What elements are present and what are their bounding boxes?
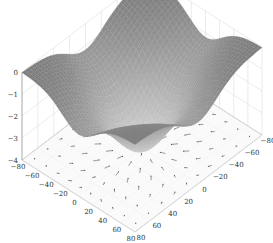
arrow-head [98,159,99,160]
arrow-head [174,192,175,193]
arrow-head [112,207,113,208]
arrow-head [74,145,75,146]
arrow-head [47,148,48,149]
arrow-head [34,158,35,159]
arrow-head [174,128,175,129]
arrow-head [171,144,172,145]
arrow-head [140,168,141,169]
x-tick-label: 80 [127,235,136,243]
y-tick-label: 60 [152,222,161,230]
arrow-head [86,153,87,154]
arrow-head [150,194,151,195]
arrow-head [137,205,138,206]
arrow-head [58,173,59,174]
arrow-head [118,171,119,172]
arrow-head [211,131,212,132]
arrow-head [222,156,223,157]
arrow-head [161,202,162,203]
arrow-head [46,165,47,166]
arrow-head [112,150,113,151]
arrow-head [81,187,82,188]
arrow-head [131,161,132,162]
y-tick-label: 0 [202,186,206,194]
arrow-head [61,138,62,139]
arrow-head [162,184,163,185]
arrow-head [174,175,175,176]
y-tick-label: 20 [184,198,193,206]
x-tick-label: −60 [25,172,40,180]
arrow-head [160,152,161,153]
arrow-head [199,124,200,125]
arrow-head [225,121,226,122]
arrow-head [100,143,101,144]
y-tick-label: 80 [137,234,146,242]
arrow-head [60,155,61,156]
arrow-head [127,178,128,179]
arrow-head [90,193,91,194]
arrow-head [100,199,101,200]
arrow-head [141,153,142,154]
arrow-head [104,182,105,183]
arrow-head [114,189,115,190]
arrow-head [135,223,136,224]
y-tick-label: −20 [213,173,228,181]
arrow-head [125,196,126,197]
arrow-head [235,146,236,147]
arrow-head [148,212,149,213]
z-tick-label: −3 [8,135,18,143]
x-tick-label: 20 [84,208,93,216]
y-tick-label: −40 [229,161,244,169]
arrow-head [70,180,71,181]
arrow-head [150,159,151,160]
x-tick-label: −80 [11,163,26,171]
arrow-head [183,151,184,152]
z-tick-label: 0 [14,69,18,77]
arrow-head [209,148,210,149]
arrow-head [124,215,125,216]
y-tick-label: −60 [245,149,260,157]
arrow-head [237,128,238,129]
arrow-head [161,167,162,168]
arrow-head [212,114,213,115]
arrow-head [249,136,250,137]
x-tick-label: 60 [112,226,121,234]
z-axis: 0−1−2−3−4 [8,69,22,165]
z-tick-label: −1 [8,91,18,99]
arrow-head [184,167,185,168]
arrow-head [84,170,85,171]
arrow-head [196,158,197,159]
x-tick-label: −20 [53,190,68,198]
y-tick-label: −80 [261,137,273,145]
arrow-head [197,141,198,142]
y-tick-label: 40 [168,210,177,218]
arrow-head [208,166,209,167]
arrow-head [196,175,197,176]
arrow-head [72,163,73,164]
arrow-head [94,176,95,177]
arrow-head [172,159,173,160]
surface-plot: 0−1−2−3−4 −80−60−40−20020406080 80604020… [0,0,273,243]
arrow-head [122,156,123,157]
z-tick-label: −2 [8,113,18,121]
arrow-head [109,165,110,166]
arrow-head [186,183,187,184]
arrow-head [184,134,185,135]
x-tick-label: −40 [39,181,54,189]
x-tick-label: 40 [98,217,107,225]
arrow-head [150,176,151,177]
arrow-head [223,138,224,139]
x-tick-label: 0 [72,199,76,207]
arrow-head [138,186,139,187]
